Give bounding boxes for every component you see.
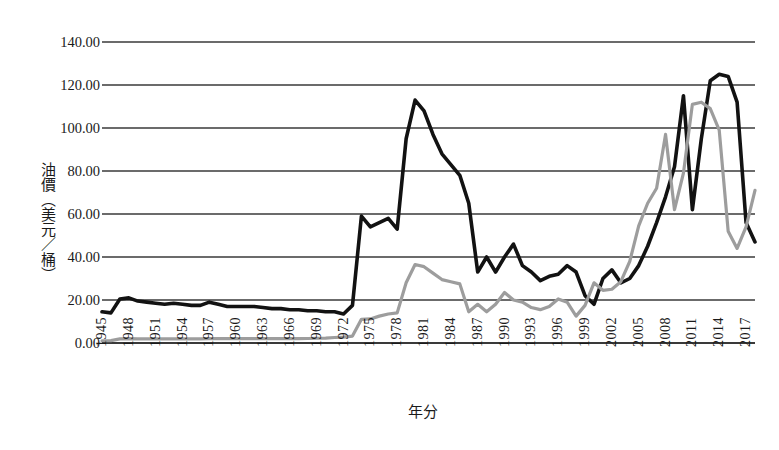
x-axis-tick-label: 1972 — [336, 317, 352, 347]
x-axis-tick-label: 1948 — [121, 317, 137, 347]
x-axis-tick-label: 1966 — [282, 317, 298, 347]
x-axis-tick-label: 2017 — [738, 317, 754, 347]
x-axis-tick-label: 1954 — [175, 317, 191, 347]
x-axis-tick-label: 1957 — [201, 317, 217, 347]
plot-svg — [102, 42, 755, 343]
x-axis-tick-label: 1996 — [550, 317, 566, 347]
x-axis-tick-label: 1990 — [497, 317, 513, 347]
y-axis-tick-label: 20.00 — [44, 292, 100, 309]
y-axis-tick-labels: 0.0020.0040.0060.0080.00100.00120.00140.… — [44, 0, 100, 450]
x-axis-tick-label: 2008 — [658, 317, 674, 347]
x-axis-tick-label: 2011 — [684, 318, 700, 347]
y-axis-tick-label: 120.00 — [44, 77, 100, 94]
series-line-real-price — [102, 74, 755, 314]
x-axis-tick-labels: 1945194819511954195719601963196619691972… — [102, 347, 755, 403]
y-axis-tick-label: 80.00 — [44, 163, 100, 180]
x-axis-tick-label: 1945 — [94, 317, 110, 347]
x-axis-tick-label: 2014 — [711, 317, 727, 347]
x-axis-tick-label: 1969 — [309, 317, 325, 347]
y-axis-tick-label: 100.00 — [44, 120, 100, 137]
x-axis-title: 年分 — [0, 400, 779, 421]
x-axis-tick-label: 2002 — [604, 317, 620, 347]
y-axis-tick-label: 0.00 — [44, 335, 100, 352]
x-axis-tick-label: 1963 — [255, 317, 271, 347]
x-axis-tick-label: 1960 — [228, 317, 244, 347]
plot-area — [102, 42, 755, 343]
x-axis-tick-label: 1999 — [577, 317, 593, 347]
x-axis-tick-label: 1984 — [443, 317, 459, 347]
x-axis-tick-label: 1987 — [470, 317, 486, 347]
x-axis-tick-label: 2005 — [631, 317, 647, 347]
y-axis-tick-label: 140.00 — [44, 34, 100, 51]
x-axis-tick-label: 1981 — [416, 317, 432, 347]
x-axis-tick-label: 1993 — [523, 317, 539, 347]
y-axis-tick-label: 40.00 — [44, 249, 100, 266]
x-axis-tick-label: 1978 — [389, 317, 405, 347]
x-axis-tick-label: 1951 — [148, 317, 164, 347]
x-axis-tick-label: 1975 — [362, 317, 378, 347]
y-axis-tick-label: 60.00 — [44, 206, 100, 223]
oil-price-chart: 油價（美元／桶） 0.0020.0040.0060.0080.00100.001… — [0, 0, 779, 450]
